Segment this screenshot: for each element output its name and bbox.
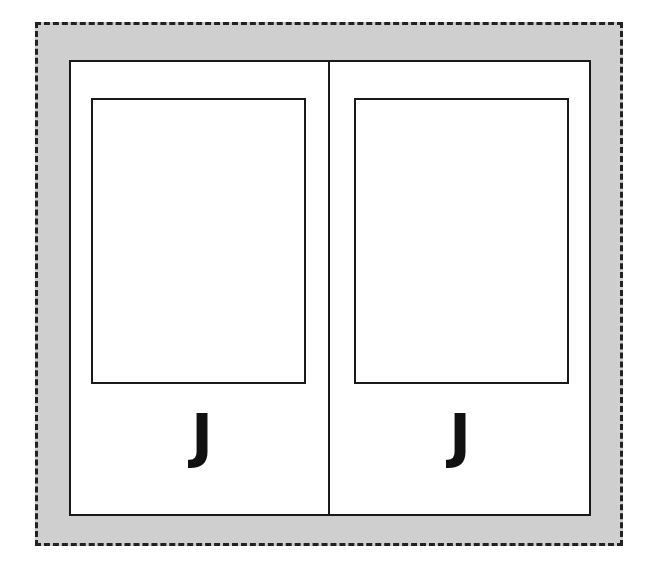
right-panel-letter: J [430, 406, 490, 466]
panel-divider [328, 60, 330, 516]
left-panel-letter: J [172, 406, 232, 466]
left-panel-rectangle [91, 98, 306, 384]
right-panel-rectangle [354, 98, 569, 384]
